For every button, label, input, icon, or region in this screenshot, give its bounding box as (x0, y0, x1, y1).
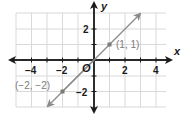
axis-label-x: x (173, 45, 181, 57)
x-tick-label: 4 (153, 65, 159, 76)
axis-label-y: y (100, 0, 108, 12)
origin-label: O (82, 62, 91, 74)
x-tick-label: −4 (25, 65, 37, 76)
axes (10, 3, 171, 112)
point-label-neg2-neg2: (−2, −2) (15, 80, 50, 91)
x-tick-label: 2 (122, 65, 128, 76)
point-1-1 (108, 43, 112, 47)
y-tick-label: 2 (83, 24, 89, 35)
point-label-1-1: (1, 1) (116, 39, 139, 50)
coordinate-plane: y x O −4 −2 2 4 2 −2 (1, 1) (−2, −2) (0, 0, 184, 115)
point-neg2-neg2 (61, 90, 65, 94)
x-tick-label: −2 (56, 65, 68, 76)
y-tick-label: −2 (76, 87, 88, 98)
